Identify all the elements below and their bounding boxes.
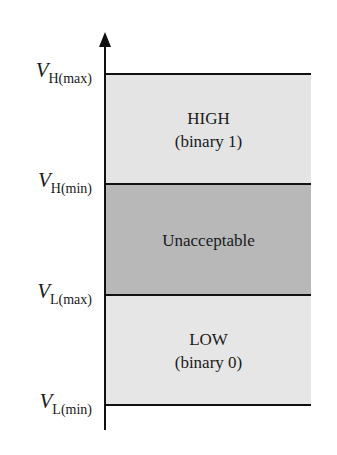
- label-vh-min: VH(min): [38, 168, 92, 193]
- level-line-vl-max: [105, 294, 311, 296]
- unacceptable-band-title: Unacceptable: [162, 229, 255, 252]
- label-vl-max-sub: L(max): [50, 292, 92, 307]
- level-line-vh-min: [105, 183, 311, 185]
- high-band-subtitle: (binary 1): [175, 130, 243, 153]
- low-band: LOW (binary 0): [106, 296, 311, 405]
- label-vh-min-symbol: V: [38, 168, 51, 192]
- label-vh-min-sub: H(min): [51, 181, 92, 196]
- high-band-title: HIGH: [187, 107, 230, 130]
- level-line-vl-min: [105, 404, 311, 406]
- label-vl-min-sub: L(min): [52, 402, 92, 417]
- low-band-subtitle: (binary 0): [175, 351, 243, 374]
- level-line-vh-max: [105, 73, 311, 75]
- label-vl-max-symbol: V: [37, 279, 50, 303]
- low-band-title: LOW: [189, 328, 228, 351]
- high-band: HIGH (binary 1): [106, 75, 311, 184]
- unacceptable-band: Unacceptable: [106, 185, 311, 295]
- label-vl-min-symbol: V: [40, 389, 53, 413]
- label-vh-max: VH(max): [36, 58, 92, 83]
- label-vh-max-symbol: V: [36, 58, 49, 82]
- label-vl-min: VL(min): [40, 389, 92, 414]
- label-vh-max-sub: H(max): [48, 71, 92, 86]
- label-vl-max: VL(max): [37, 279, 92, 304]
